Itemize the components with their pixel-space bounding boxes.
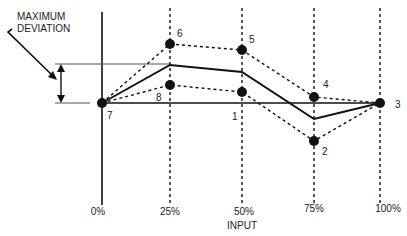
- point-4: [309, 92, 319, 102]
- annotation-line1: MAXIMUM: [17, 11, 65, 22]
- point-3: [375, 98, 385, 108]
- annotation-line2: DEVIATION: [17, 23, 70, 34]
- deviation-diagram: 6 5 8 1 4 2 3 7 MAXIMUM DEVIATION 0% 25%…: [0, 0, 407, 236]
- x-tick-25: 25%: [160, 206, 180, 217]
- x-tick-50: 50%: [234, 206, 254, 217]
- point-label-7: 7: [107, 110, 113, 121]
- x-tick-75: 75%: [304, 203, 324, 214]
- point-label-5: 5: [249, 34, 255, 45]
- double-arrow-icon: [57, 64, 65, 103]
- point-label-6: 6: [177, 28, 183, 39]
- point-label-4: 4: [323, 79, 329, 90]
- point-label-3: 3: [395, 99, 401, 110]
- point-label-2: 2: [322, 146, 328, 157]
- point-8: [165, 80, 175, 90]
- point-6: [165, 39, 175, 49]
- x-axis-title: INPUT: [227, 220, 257, 231]
- point-2: [309, 136, 319, 146]
- point-label-1: 1: [232, 111, 238, 122]
- point-label-8: 8: [156, 92, 162, 103]
- x-tick-0: 0%: [91, 206, 106, 217]
- x-tick-100: 100%: [375, 203, 401, 214]
- vertical-gridlines: [170, 8, 380, 205]
- point-5: [237, 45, 247, 55]
- point-1: [237, 87, 247, 97]
- data-points: [97, 39, 385, 146]
- point-7: [97, 98, 107, 108]
- annotation-pointer-icon: [8, 29, 57, 80]
